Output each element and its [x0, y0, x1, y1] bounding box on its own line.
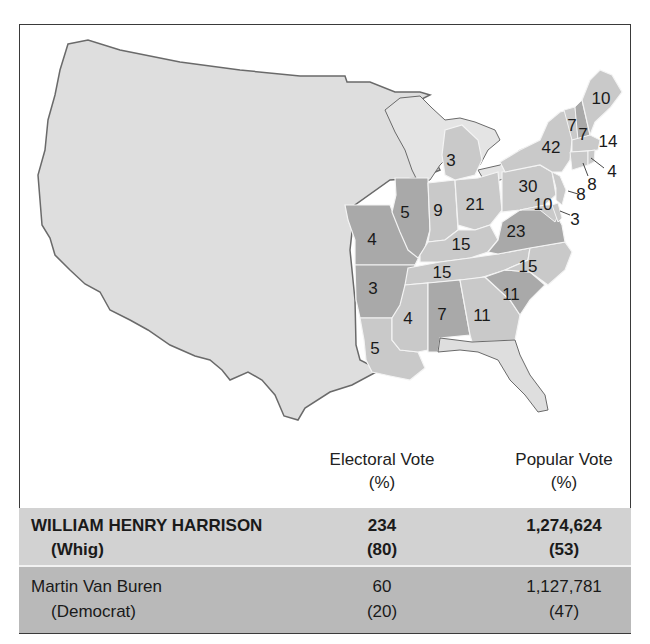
candidate-party: (Whig)	[51, 538, 104, 562]
ev-label-ny: 42	[542, 138, 561, 157]
candidate-name: WILLIAM HENRY HARRISON	[31, 514, 262, 538]
ev-label-ga: 11	[473, 306, 491, 325]
electoral-votes: 60	[317, 575, 447, 599]
ev-label-nc: 15	[519, 257, 538, 276]
ev-label-ms: 4	[403, 309, 412, 328]
ev-label-tn: 15	[433, 263, 452, 282]
ev-label-me: 10	[592, 89, 611, 108]
electoral-pct: (80)	[317, 538, 447, 562]
results-header: Electoral Vote (%) Popular Vote (%)	[19, 440, 631, 508]
electoral-vote-pct-label: (%)	[317, 471, 447, 494]
ev-label-la: 5	[370, 339, 379, 358]
ev-label-mi: 3	[446, 151, 455, 170]
state-ri	[588, 150, 595, 165]
ev-label-vt: 7	[567, 116, 576, 135]
ev-label-ct: 8	[587, 175, 596, 194]
ev-label-oh: 21	[466, 195, 485, 214]
ev-label-al: 7	[437, 305, 446, 324]
ev-label-nj: 8	[576, 185, 585, 204]
candidate-party: (Democrat)	[51, 600, 136, 624]
popular-vote-header: Popular Vote (%)	[499, 448, 629, 494]
ev-label-va: 23	[507, 222, 526, 241]
ev-label-ky: 15	[452, 235, 471, 254]
state-ct	[570, 151, 588, 170]
popular-pct: (47)	[499, 600, 629, 624]
ev-label-nh: 7	[578, 125, 587, 144]
state-ny	[500, 110, 572, 172]
ev-label-in: 9	[433, 201, 442, 220]
ev-label-pa: 30	[519, 177, 538, 196]
results-table: Electoral Vote (%) Popular Vote (%) WILL…	[19, 440, 631, 508]
ev-label-sc: 11	[502, 285, 520, 304]
popular-pct: (53)	[499, 538, 629, 562]
ev-label-de: 3	[570, 210, 579, 229]
electoral-votes: 234	[317, 514, 447, 538]
candidate-name: Martin Van Buren	[31, 575, 162, 599]
electoral-vote-label: Electoral Vote	[317, 448, 447, 471]
ev-label-ar: 3	[368, 279, 377, 298]
electoral-pct: (20)	[317, 600, 447, 624]
popular-vote-label: Popular Vote	[499, 448, 629, 471]
electoral-vote-header: Electoral Vote (%)	[317, 448, 447, 494]
popular-vote-pct-label: (%)	[499, 471, 629, 494]
territory-fl	[438, 338, 548, 412]
ev-label-mo: 4	[367, 230, 376, 249]
ev-label-ma: 14	[599, 132, 618, 151]
ev-label-md: 10	[534, 195, 553, 214]
candidate-row-harrison: WILLIAM HENRY HARRISON (Whig) 234 (80) 1…	[19, 508, 631, 567]
popular-votes: 1,274,624	[499, 514, 629, 538]
ev-label-ri: 4	[607, 162, 616, 181]
candidate-row-van-buren: Martin Van Buren (Democrat) 60 (20) 1,12…	[19, 567, 631, 633]
popular-votes: 1,127,781	[499, 575, 629, 599]
ev-label-il: 5	[400, 203, 409, 222]
